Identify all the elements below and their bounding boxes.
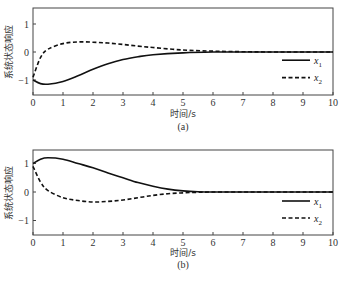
series-x2 — [33, 166, 333, 202]
x-tick-label: 3 — [121, 97, 126, 108]
x-tick-label: 0 — [31, 97, 36, 108]
x-tick-label: 10 — [328, 237, 338, 248]
x-tick-label: 2 — [91, 97, 96, 108]
x-tick-label: 8 — [271, 237, 276, 248]
x-tick-label: 5 — [181, 97, 186, 108]
x-tick-label: 7 — [241, 237, 246, 248]
legend: x1x2 — [282, 196, 322, 227]
legend-label-x2: x2 — [313, 213, 322, 227]
y-tick-label: 0 — [24, 187, 29, 198]
legend-label-x1: x1 — [313, 196, 322, 210]
panel-b: 01234567891010−1系统状态响应时间/s(b)x1x2 — [3, 150, 338, 271]
series-x1 — [33, 52, 333, 84]
figure: 01234567891010−1系统状态响应时间/s(a)x1x20123456… — [0, 0, 345, 282]
legend: x1x2 — [282, 55, 322, 86]
legend-label-x1: x1 — [313, 55, 322, 69]
x-tick-label: 2 — [91, 237, 96, 248]
x-tick-label: 9 — [301, 97, 306, 108]
x-tick-label: 0 — [31, 237, 36, 248]
x-tick-label: 7 — [241, 97, 246, 108]
y-tick-label: −1 — [18, 75, 29, 86]
x-tick-label: 10 — [328, 97, 338, 108]
x-tick-label: 6 — [211, 97, 216, 108]
y-tick-label: 1 — [24, 158, 29, 169]
x-tick-label: 9 — [301, 237, 306, 248]
y-tick-label: −1 — [18, 215, 29, 226]
x-tick-label: 6 — [211, 237, 216, 248]
panel-caption: (a) — [177, 121, 188, 133]
x-axis-label: 时间/s — [170, 247, 196, 258]
x-tick-label: 1 — [61, 97, 66, 108]
y-axis-label: 系统状态响应 — [3, 25, 14, 79]
y-axis-label: 系统状态响应 — [3, 166, 14, 220]
x-tick-label: 4 — [151, 97, 156, 108]
x-tick-label: 3 — [121, 237, 126, 248]
x-axis-label: 时间/s — [170, 108, 196, 119]
y-tick-label: 1 — [24, 19, 29, 30]
x-tick-label: 5 — [181, 237, 186, 248]
panel-a: 01234567891010−1系统状态响应时间/s(a)x1x2 — [3, 8, 338, 133]
x-tick-label: 4 — [151, 237, 156, 248]
legend-label-x2: x2 — [313, 72, 322, 86]
x-tick-label: 8 — [271, 97, 276, 108]
y-tick-label: 0 — [24, 47, 29, 58]
x-tick-label: 1 — [61, 237, 66, 248]
series-x1 — [33, 158, 333, 192]
panel-caption: (b) — [177, 259, 189, 271]
